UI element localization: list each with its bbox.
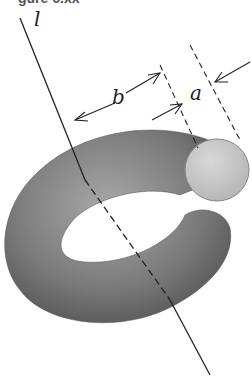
major-radius-label: b (112, 85, 125, 109)
minor-radius-label: a (190, 81, 202, 105)
figure-caption: gure 6.xx (18, 0, 80, 6)
axis-label: l (34, 7, 40, 31)
torus-diagram: gure 6.xx l b a (0, 0, 252, 379)
cross-section (185, 139, 249, 201)
torus (5, 130, 249, 323)
